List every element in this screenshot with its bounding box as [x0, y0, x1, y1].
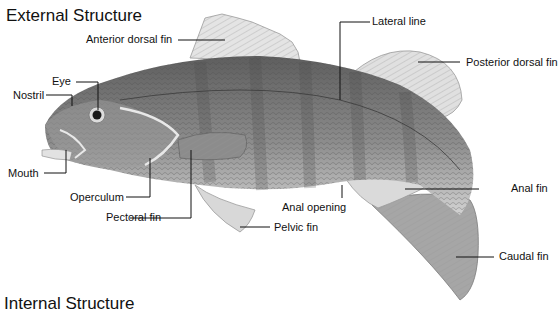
- label-pectoral-fin: Pectoral fin: [106, 211, 161, 223]
- anterior-dorsal-fin-shape: [190, 14, 300, 62]
- label-mouth: Mouth: [8, 167, 39, 179]
- label-pelvic-fin: Pelvic fin: [274, 221, 318, 233]
- pelvic-fin-shape: [195, 185, 255, 232]
- label-anal-fin: Anal fin: [511, 182, 548, 194]
- label-anterior-dorsal-fin: Anterior dorsal fin: [86, 33, 172, 45]
- label-nostril: Nostril: [13, 89, 44, 101]
- pectoral-fin-shape: [178, 132, 247, 159]
- label-lateral-line: Lateral line: [372, 15, 426, 27]
- label-eye: Eye: [52, 75, 71, 87]
- internal-structure-title: Internal Structure: [4, 294, 134, 313]
- label-anal-opening: Anal opening: [282, 201, 346, 213]
- label-operculum: Operculum: [70, 191, 124, 203]
- label-posterior-dorsal-fin: Posterior dorsal fin: [466, 56, 558, 68]
- label-caudal-fin: Caudal fin: [499, 250, 549, 262]
